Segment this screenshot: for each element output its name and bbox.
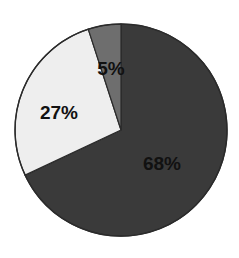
pie-slice-group xyxy=(15,24,227,236)
pie-chart-canvas xyxy=(0,0,239,258)
pie-slice-label-5: 5% xyxy=(97,59,124,78)
pie-slice-label-27: 27% xyxy=(40,103,78,122)
pie-chart: 68% 27% 5% xyxy=(0,0,239,258)
pie-slice-label-68: 68% xyxy=(143,154,181,173)
